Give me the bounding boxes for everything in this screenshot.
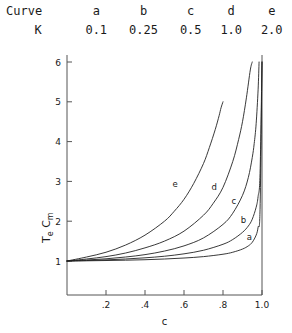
x-axis-label: c [162, 316, 168, 327]
legend-curve-e: e [251, 2, 292, 21]
curve-label-e: e [173, 179, 178, 189]
y-tick-label-4: 4 [55, 137, 61, 147]
legend-k-e: 2.0 [251, 21, 292, 40]
legend-curve-b: b [117, 2, 171, 21]
curve-e [67, 102, 223, 261]
legend-curve-d: d [211, 2, 252, 21]
y-tick-label-5: 5 [55, 97, 61, 107]
x-tick-label-1.0: 1.0 [255, 300, 270, 310]
legend-curve-a: a [76, 2, 117, 21]
x-tick-label-.4: .4 [141, 300, 150, 310]
curve-label-b: b [241, 215, 246, 225]
curve-label-a: a [247, 232, 252, 242]
curve-legend-table: Curve a b c d e K 0.1 0.25 0.5 1.0 2.0 [0, 2, 292, 40]
chart-svg: 123456.2.4.6.81.0cabcde [0, 50, 292, 333]
chart-plot-area: Te Cm 123456.2.4.6.81.0cabcde [0, 50, 292, 333]
legend-row-curve: Curve a b c d e [0, 2, 292, 21]
y-axis-label: Te Cm [18, 195, 78, 255]
legend-row-label-k: K [0, 21, 76, 40]
curve-label-c: c [231, 196, 236, 206]
curve-d [67, 62, 252, 261]
legend-curve-c: c [170, 2, 211, 21]
legend-k-d: 1.0 [211, 21, 252, 40]
x-tick-label-.2: .2 [102, 300, 111, 310]
y-axis-label-text: Te Cm [40, 212, 55, 243]
y-tick-label-6: 6 [55, 58, 61, 68]
legend-row-label-curve: Curve [0, 2, 76, 21]
legend-k-c: 0.5 [170, 21, 211, 40]
legend-k-b: 0.25 [117, 21, 171, 40]
curve-c [67, 62, 259, 261]
legend-k-a: 0.1 [76, 21, 117, 40]
legend-row-k: K 0.1 0.25 0.5 1.0 2.0 [0, 21, 292, 40]
x-tick-label-.8: .8 [219, 300, 228, 310]
y-tick-label-1: 1 [55, 257, 61, 267]
y-tick-label-3: 3 [55, 177, 61, 187]
x-tick-label-.6: .6 [180, 300, 189, 310]
curve-label-d: d [212, 182, 217, 192]
